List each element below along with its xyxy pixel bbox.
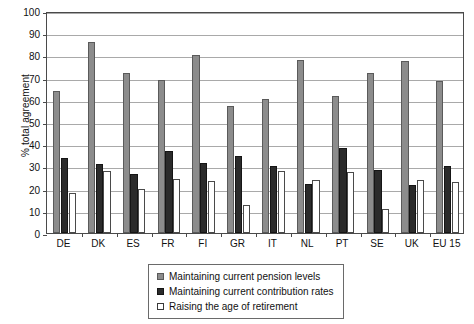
y-axis-tick-label: 0	[0, 229, 40, 240]
legend: Maintaining current pension levelsMainta…	[148, 264, 344, 319]
bar	[227, 106, 234, 233]
y-axis-tick-label: 70	[0, 73, 40, 84]
bar	[200, 163, 207, 233]
bar	[367, 73, 374, 233]
x-axis-tick-mark	[82, 233, 83, 237]
x-axis-tick-label: NL	[290, 238, 325, 249]
bar	[347, 172, 354, 233]
bar-group	[47, 13, 82, 233]
bar	[444, 166, 451, 233]
y-axis-tick-label: 100	[0, 7, 40, 18]
bar	[235, 156, 242, 233]
x-axis-tick-mark	[186, 233, 187, 237]
legend-item-label: Maintaining current pension levels	[169, 271, 320, 282]
bar	[339, 148, 346, 233]
bar	[53, 91, 60, 233]
bar-group	[291, 13, 326, 233]
legend-item: Raising the age of retirement	[157, 299, 337, 314]
x-axis-tick-mark	[361, 233, 362, 237]
y-axis-tick-label: 20	[0, 184, 40, 195]
x-axis-tick-mark	[221, 233, 222, 237]
bar	[138, 189, 145, 233]
x-axis-tick-label: DK	[81, 238, 116, 249]
legend-item: Maintaining current contribution rates	[157, 284, 337, 299]
x-axis-tick-mark	[152, 233, 153, 237]
bar	[192, 55, 199, 233]
y-axis-tick-label: 80	[0, 51, 40, 62]
bar-group	[395, 13, 430, 233]
bar	[401, 61, 408, 233]
bar	[382, 209, 389, 233]
bar	[262, 99, 269, 233]
y-axis-tick-label: 40	[0, 140, 40, 151]
bar	[165, 151, 172, 233]
y-axis-tick-label: 90	[0, 29, 40, 40]
x-axis-tick-mark	[117, 233, 118, 237]
legend-item: Maintaining current pension levels	[157, 269, 337, 284]
bar-group	[82, 13, 117, 233]
bar	[452, 182, 459, 233]
grey-swatch	[157, 273, 164, 280]
bar	[312, 180, 319, 233]
bar	[436, 81, 443, 233]
bar-group	[221, 13, 256, 233]
bar-group	[117, 13, 152, 233]
bar	[297, 60, 304, 233]
bar-group	[361, 13, 396, 233]
x-axis-tick-label: ES	[116, 238, 151, 249]
white-swatch	[157, 303, 164, 310]
y-axis-tick-label: 60	[0, 95, 40, 106]
bar	[305, 184, 312, 233]
bar	[88, 42, 95, 233]
plot-area	[46, 12, 464, 234]
bar-chart-figure: % total agreement 0102030405060708090100…	[0, 0, 474, 324]
x-axis-tick-mark	[326, 233, 327, 237]
bar-group	[256, 13, 291, 233]
bar-groups	[47, 13, 463, 233]
bar	[61, 158, 68, 233]
bar	[96, 164, 103, 233]
x-axis-tick-label: DE	[46, 238, 81, 249]
x-axis-tick-label: SE	[360, 238, 395, 249]
bar-group	[152, 13, 187, 233]
bar	[158, 80, 165, 233]
bar	[123, 73, 130, 233]
bar	[243, 205, 250, 233]
x-axis-tick-label: GR	[220, 238, 255, 249]
x-axis-tick-mark	[291, 233, 292, 237]
bar-group	[326, 13, 361, 233]
bar	[278, 171, 285, 233]
black-swatch	[157, 288, 164, 295]
y-axis-tick-label: 30	[0, 162, 40, 173]
x-axis-tick-mark	[430, 233, 431, 237]
legend-item-label: Raising the age of retirement	[169, 301, 297, 312]
x-axis-tick-label: FI	[185, 238, 220, 249]
x-axis-tick-label: FR	[151, 238, 186, 249]
x-axis-tick-label: IT	[255, 238, 290, 249]
bar	[332, 96, 339, 233]
bar	[208, 181, 215, 233]
bar	[374, 170, 381, 233]
x-axis-tick-label: PT	[325, 238, 360, 249]
y-axis-tick-label: 10	[0, 206, 40, 217]
x-axis-tick-label: UK	[394, 238, 429, 249]
bar	[103, 171, 110, 233]
bar	[409, 185, 416, 233]
legend-item-label: Maintaining current contribution rates	[169, 286, 334, 297]
y-axis-tick-mark	[43, 235, 47, 236]
bar-group	[186, 13, 221, 233]
x-axis-tick-mark	[395, 233, 396, 237]
bar	[270, 166, 277, 233]
bar	[417, 180, 424, 233]
x-axis-tick-mark	[256, 233, 257, 237]
x-axis-tick-label: EU 15	[429, 238, 464, 249]
bar	[69, 193, 76, 233]
bar-group	[430, 13, 465, 233]
bar	[173, 179, 180, 233]
y-axis-tick-label: 50	[0, 118, 40, 129]
bar	[130, 174, 137, 233]
